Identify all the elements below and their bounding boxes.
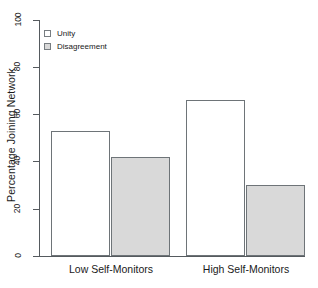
chart-legend: Unity Disagreement: [44, 28, 107, 54]
x-group-label-high: High Self-Monitors: [166, 263, 318, 275]
bar-high-unity: [186, 100, 245, 256]
legend-swatch-icon-disagreement: [44, 43, 51, 50]
bar-chart: Percentage Joining Network 100 80 60 40 …: [0, 0, 318, 288]
bar-low-disagreement: [111, 157, 170, 256]
legend-item-unity: Unity: [44, 28, 107, 39]
bar-high-disagreement: [246, 185, 305, 256]
legend-label-disagreement: Disagreement: [57, 42, 107, 51]
x-axis-baseline: [39, 256, 305, 257]
bar-low-unity: [51, 131, 110, 256]
legend-item-disagreement: Disagreement: [44, 41, 107, 52]
legend-label-unity: Unity: [57, 29, 75, 38]
legend-swatch-icon-unity: [44, 30, 51, 37]
